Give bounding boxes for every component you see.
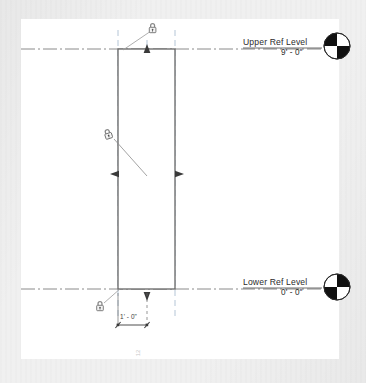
- extrusion-profile[interactable]: [118, 49, 175, 289]
- dimension-1ft[interactable]: [115, 293, 149, 328]
- level-label-lower-name[interactable]: Lower Ref Level: [243, 278, 307, 287]
- rotated-reference-label: 12: [135, 343, 141, 363]
- level-head-lower[interactable]: [324, 274, 350, 300]
- dimension-label[interactable]: 1' - 0": [120, 314, 137, 321]
- bottom-lock-leader: [104, 288, 121, 303]
- left-arrow-grip[interactable]: [110, 171, 119, 177]
- right-arrow-grip[interactable]: [175, 171, 184, 177]
- padlock-icon-top[interactable]: [149, 23, 156, 33]
- drawing-layer: [0, 0, 366, 383]
- padlock-icon-center[interactable]: [103, 128, 112, 139]
- elevation-view-root: Upper Ref Level 9' - 0" Lower Ref Level …: [0, 0, 366, 383]
- level-label-lower-elevation[interactable]: 0' - 0": [281, 289, 303, 298]
- level-label-upper-name[interactable]: Upper Ref Level: [243, 38, 307, 47]
- padlock-icon-bottom[interactable]: [97, 301, 104, 311]
- level-label-upper-elevation[interactable]: 9' - 0": [281, 49, 303, 58]
- level-head-upper[interactable]: [324, 33, 350, 59]
